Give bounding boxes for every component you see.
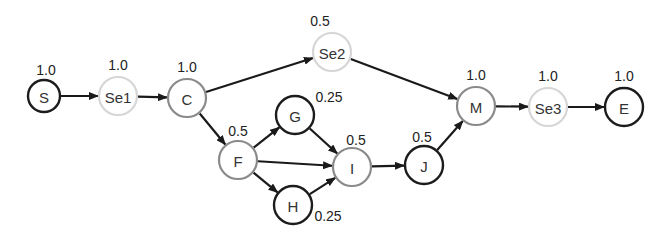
edge-se1-to-c — [138, 97, 167, 98]
edge-f-to-i — [258, 161, 332, 166]
node-weight-label: 0.5 — [412, 129, 432, 145]
node-weight-label: 0.5 — [346, 132, 366, 148]
node-label: Se3 — [535, 100, 562, 117]
node-weight-label: 1.0 — [614, 68, 634, 84]
node-s: S1.0 — [28, 62, 60, 112]
node-weight-label: 0.25 — [314, 208, 341, 224]
node-se1: Se11.0 — [99, 57, 137, 115]
node-se3: Se31.0 — [529, 68, 567, 126]
node-label: G — [289, 108, 301, 125]
node-se2: Se20.5 — [310, 13, 351, 71]
node-label: I — [350, 160, 354, 177]
node-e: E1.0 — [605, 68, 643, 126]
node-weight-label: 0.5 — [228, 123, 248, 139]
node-label: H — [288, 198, 299, 215]
node-m: M1.0 — [457, 67, 495, 125]
node-weight-label: 1.0 — [177, 59, 197, 75]
edges-layer — [61, 58, 604, 194]
node-label: E — [619, 100, 629, 117]
edge-f-to-h — [253, 173, 277, 193]
node-label: M — [470, 99, 483, 116]
node-weight-label: 1.0 — [108, 57, 128, 73]
node-label: Se2 — [319, 45, 346, 62]
nodes-layer: S1.0Se11.0C1.0Se20.5F0.5G0.25H0.25I0.5J0… — [28, 13, 643, 224]
node-weight-label: 1.0 — [538, 68, 558, 84]
node-label: F — [233, 153, 242, 170]
node-f: F0.5 — [219, 123, 257, 179]
node-weight-label: 0.5 — [310, 13, 330, 29]
edge-g-to-i — [310, 128, 337, 153]
node-j: J0.5 — [405, 129, 443, 184]
process-graph-diagram: S1.0Se11.0C1.0Se20.5F0.5G0.25H0.25I0.5J0… — [0, 0, 666, 238]
node-i: I0.5 — [333, 132, 371, 186]
node-g: G0.25 — [276, 89, 343, 134]
node-label: Se1 — [105, 89, 132, 106]
node-weight-label: 0.25 — [315, 89, 342, 105]
edge-h-to-i — [310, 178, 335, 194]
node-label: J — [420, 158, 428, 175]
node-label: S — [39, 89, 49, 106]
node-weight-label: 1.0 — [466, 67, 486, 83]
edge-c-to-se2 — [206, 58, 313, 92]
node-weight-label: 1.0 — [36, 62, 56, 78]
node-h: H0.25 — [274, 186, 342, 224]
node-label: C — [182, 91, 193, 108]
edge-j-to-m — [437, 121, 463, 150]
edge-i-to-j — [372, 166, 404, 167]
edge-se2-to-m — [351, 59, 458, 99]
edge-f-to-g — [254, 127, 280, 147]
edge-c-to-f — [200, 113, 226, 144]
node-c: C1.0 — [168, 59, 206, 117]
